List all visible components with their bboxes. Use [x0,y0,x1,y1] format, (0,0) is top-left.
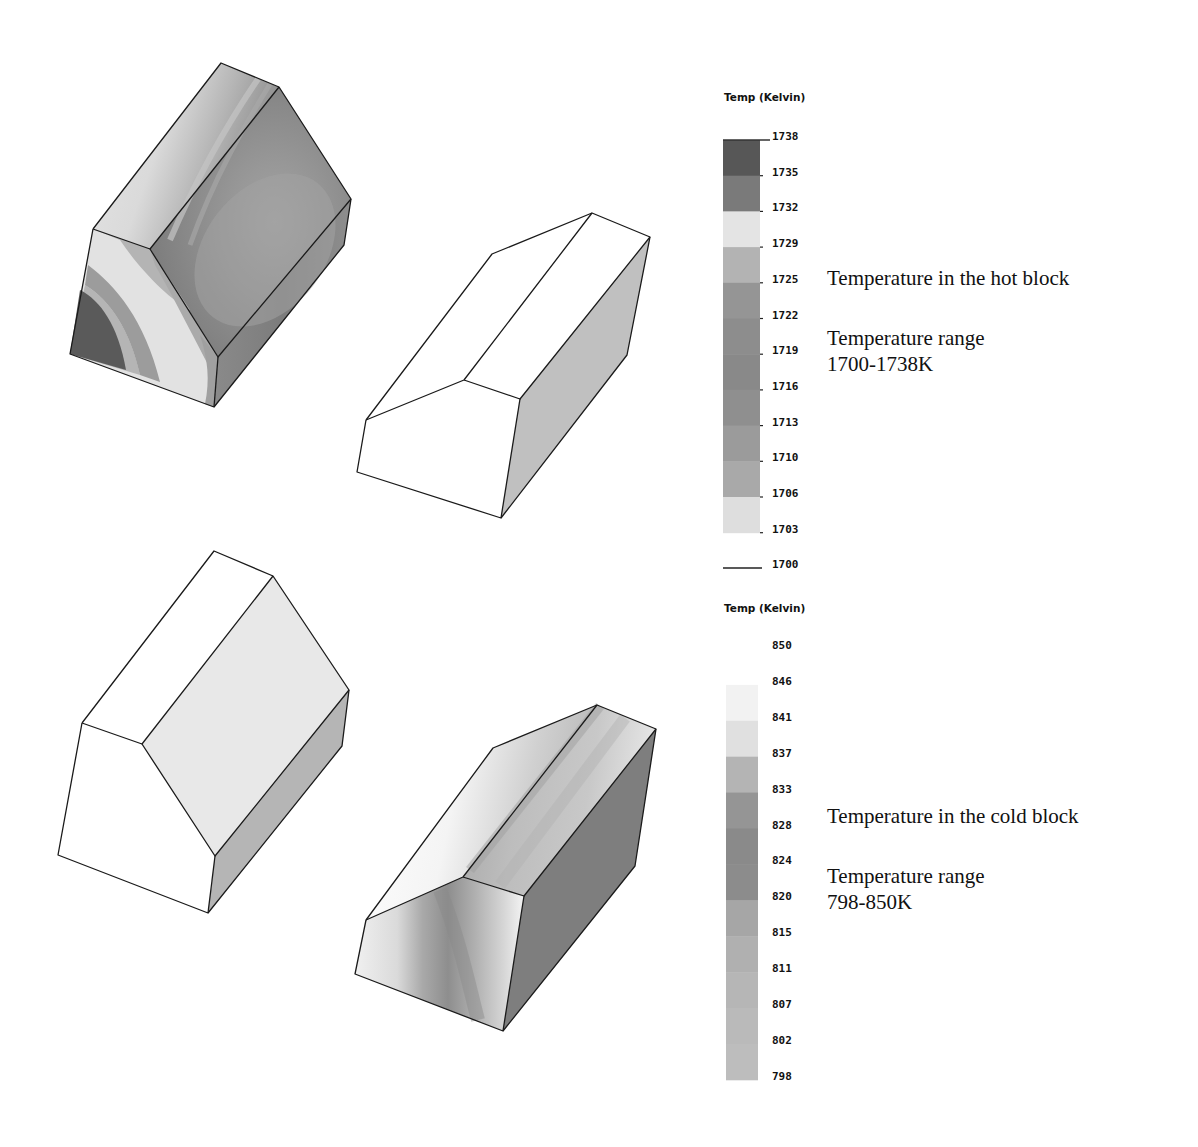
hot-legend-tick-label: 1710 [772,451,799,464]
cold-legend-band [726,793,758,829]
hot-block-back-view [357,213,650,518]
hot-block-front-view [70,63,365,407]
hot-legend: Temp (Kelvin) 17381735173217291725172217… [723,91,805,571]
hot-legend-band [723,497,760,533]
cold-legend-band [726,1008,758,1044]
hot-caption-title: Temperature in the hot block [827,266,1070,290]
hot-legend-tick-label: 1719 [772,344,799,357]
hot-legend-band [723,319,760,355]
cold-legend-tick-label: 807 [772,998,792,1011]
hot-legend-tick-label: 1703 [772,523,799,536]
cold-caption-title: Temperature in the cold block [827,804,1079,828]
cold-caption: Temperature in the cold block Temperatur… [827,804,1079,914]
cold-legend-tick-label: 815 [772,926,792,939]
cold-legend-tick-label: 850 [772,639,792,652]
cold-caption-range-label: Temperature range [827,864,985,888]
cold-legend-tick-label: 824 [772,854,792,867]
cold-legend-tick-label: 828 [772,819,792,832]
hot-legend-band [723,176,760,212]
hot-legend-band [723,140,760,176]
hot-legend-tick-label: 1706 [772,487,799,500]
cold-legend-tick-label: 833 [772,783,792,796]
cold-legend-band [726,900,758,936]
cold-legend-band [726,864,758,900]
hot-legend-title: Temp (Kelvin) [724,91,805,103]
cold-legend-band [726,829,758,865]
hot-legend-tick-label: 1725 [772,273,799,286]
cold-legend-band [726,685,758,721]
cold-legend-band [726,936,758,972]
cold-legend-band [726,1044,758,1080]
hot-legend-tick-label: 1729 [772,237,799,250]
cold-legend-tick-label: 841 [772,711,792,724]
cold-legend-tick-label: 798 [772,1070,792,1083]
cold-legend-band [726,972,758,1008]
cold-legend-tick-label: 846 [772,675,792,688]
hot-legend-band [723,283,760,319]
hot-legend-tick-label: 1738 [772,130,799,143]
hot-legend-tick-label: 1732 [772,201,799,214]
hot-caption: Temperature in the hot block Temperature… [827,266,1070,376]
hot-legend-band [723,247,760,283]
cold-legend-band [726,757,758,793]
hot-legend-tick-label: 1722 [772,309,799,322]
cold-caption-range-value: 798-850K [827,890,912,914]
cold-legend-tick-label: 837 [772,747,792,760]
hot-legend-tick-label: 1716 [772,380,799,393]
hot-legend-colorbar [723,140,760,533]
cold-legend-tick-label: 820 [772,890,792,903]
hot-legend-tick-label: 1713 [772,416,799,429]
hot-caption-range-value: 1700-1738K [827,352,933,376]
cold-legend-tick-label: 811 [772,962,792,975]
temperature-figure: Temp (Kelvin) 17381735173217291725172217… [0,0,1198,1147]
hot-legend-band [723,211,760,247]
hot-legend-band [723,390,760,426]
cold-legend-ticks: 850846841837833828824820815811807802798 [772,639,792,1083]
hot-legend-band [723,461,760,497]
cold-block-back-view [355,705,656,1031]
cold-legend-title: Temp (Kelvin) [724,602,805,614]
cold-legend-colorbar [726,685,758,1080]
hot-legend-tick-label: 1700 [772,558,799,571]
cold-legend-tick-label: 802 [772,1034,792,1047]
cold-block-front-view [58,551,349,913]
cold-legend-band [726,721,758,757]
hot-caption-range-label: Temperature range [827,326,985,350]
hot-legend-band [723,354,760,390]
hot-legend-band [723,426,760,462]
hot-legend-tick-label: 1735 [772,166,799,179]
cold-legend: Temp (Kelvin) 85084684183783382882482081… [724,602,805,1083]
